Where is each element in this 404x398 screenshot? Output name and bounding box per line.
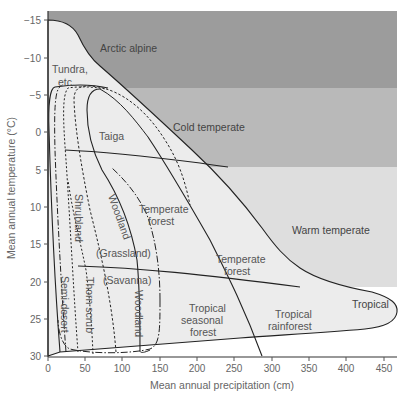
label-arctic-alpine: Arctic alpine — [100, 42, 157, 54]
label-tundra-2: etc. — [58, 76, 75, 88]
label-semi-desert: Semi-desert — [59, 276, 71, 333]
svg-text:300: 300 — [264, 363, 281, 374]
svg-text:400: 400 — [338, 363, 355, 374]
label-tropical-seasonal-2: seasonal — [181, 314, 223, 326]
label-tropical-rainforest-1: Tropical — [275, 308, 312, 320]
x-axis-label: Mean annual precipitation (cm) — [150, 379, 294, 391]
svg-text:150: 150 — [152, 363, 169, 374]
svg-text:200: 200 — [189, 363, 206, 374]
svg-text:−15: −15 — [24, 15, 41, 26]
svg-text:20: 20 — [30, 277, 42, 288]
y-ticks: −15 −10 −5 0 5 10 15 20 25 30 — [24, 15, 48, 362]
label-grassland: (Grassland) — [96, 247, 151, 259]
label-tropical-rainforest-2: rainforest — [268, 320, 312, 332]
svg-text:50: 50 — [79, 363, 91, 374]
label-temperate-forest-a-2: forest — [148, 215, 174, 227]
boundary-solid-bottom-woodland — [140, 350, 150, 352]
svg-text:30: 30 — [30, 351, 42, 362]
label-woodland-b: Woodland — [133, 290, 145, 337]
y-axis-label: Mean annual temperature (°C) — [5, 117, 17, 259]
label-taiga: Taiga — [99, 130, 124, 142]
svg-text:250: 250 — [226, 363, 243, 374]
svg-text:15: 15 — [30, 239, 42, 250]
x-ticks: 0 50 100 150 200 250 300 350 400 450 — [45, 357, 393, 374]
svg-text:5: 5 — [35, 165, 41, 176]
label-temperate-forest-b-1: Temperate — [216, 253, 266, 265]
svg-text:0: 0 — [35, 127, 41, 138]
label-warm-temperate: Warm temperate — [292, 224, 370, 236]
svg-text:−10: −10 — [24, 53, 41, 64]
svg-text:25: 25 — [30, 314, 42, 325]
label-tropical-seasonal-3: forest — [190, 326, 216, 338]
label-temperate-forest-b-2: forest — [224, 265, 250, 277]
svg-text:0: 0 — [45, 363, 51, 374]
label-temperate-forest-a-1: Temperate — [139, 203, 189, 215]
biome-diagram: −15 −10 −5 0 5 10 15 20 25 30 0 50 100 1… — [0, 0, 404, 398]
label-tropical-seasonal-1: Tropical — [189, 302, 226, 314]
label-tropical: Tropical — [352, 298, 389, 310]
label-thorn-scrub: Thorn scrub — [84, 277, 96, 333]
label-cold-temperate: Cold temperate — [173, 121, 245, 133]
svg-text:100: 100 — [114, 363, 131, 374]
svg-text:350: 350 — [301, 363, 318, 374]
label-savanna: (Savanna) — [103, 274, 151, 286]
label-shrubland: Shrubland — [73, 194, 85, 242]
svg-text:10: 10 — [30, 202, 42, 213]
svg-text:−5: −5 — [30, 90, 42, 101]
svg-text:450: 450 — [376, 363, 393, 374]
label-tundra-1: Tundra, — [52, 63, 88, 75]
